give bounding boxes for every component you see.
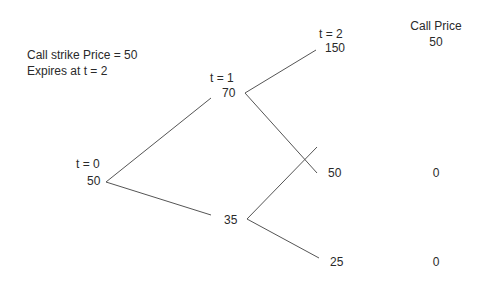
edge-t0-to-up bbox=[106, 98, 211, 182]
t1-up-price: 70 bbox=[222, 86, 235, 100]
t0-time-label: t = 0 bbox=[76, 157, 100, 171]
t1-time-label: t = 1 bbox=[210, 71, 234, 85]
call-price-header: Call Price bbox=[410, 19, 461, 33]
t2-uu-price: 150 bbox=[325, 41, 345, 55]
call-price-dd: 0 bbox=[433, 255, 440, 269]
expiry-note: Expires at t = 2 bbox=[27, 64, 107, 78]
strike-price-note: Call strike Price = 50 bbox=[27, 48, 137, 62]
call-price-uu: 50 bbox=[429, 35, 442, 49]
t2-time-label: t = 2 bbox=[319, 27, 343, 41]
t2-dd-price: 25 bbox=[330, 255, 343, 269]
t2-ud-price: 50 bbox=[328, 166, 341, 180]
edge-up-to-ud bbox=[245, 93, 317, 173]
binomial-tree-edges bbox=[0, 0, 485, 288]
edge-down-to-dd bbox=[247, 219, 319, 258]
t0-price: 50 bbox=[87, 174, 100, 188]
edge-up-to-uu bbox=[245, 50, 316, 93]
t1-down-price: 35 bbox=[224, 213, 237, 227]
edge-down-to-ud bbox=[247, 147, 317, 219]
call-price-ud: 0 bbox=[433, 166, 440, 180]
edge-t0-to-down bbox=[106, 182, 211, 215]
